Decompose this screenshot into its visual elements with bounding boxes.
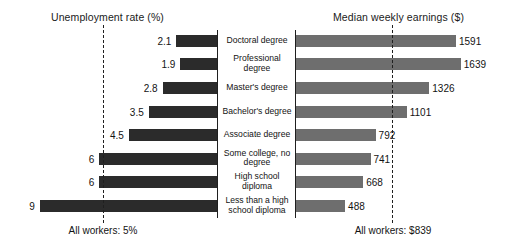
unemployment-value-label: 6 xyxy=(89,153,95,164)
earnings-bar xyxy=(296,176,363,188)
unemployment-value-label: 2.8 xyxy=(144,82,158,93)
earnings-bar xyxy=(296,129,376,141)
earnings-bar xyxy=(296,35,456,47)
earnings-bar xyxy=(296,58,461,70)
earnings-value-label: 741 xyxy=(374,153,391,164)
chart-row: 9Less than a high school diploma488 xyxy=(0,194,526,218)
category-label: Doctoral degree xyxy=(220,36,294,46)
chart-row: 6High school diploma668 xyxy=(0,171,526,195)
chart-row: 2.1Doctoral degree1591 xyxy=(0,29,526,53)
category-label: Master's degree xyxy=(220,83,294,93)
category-label: Professional degree xyxy=(220,55,294,74)
unemployment-value-label: 9 xyxy=(29,200,35,211)
left-footer-label: All workers: 5% xyxy=(69,225,138,236)
earnings-value-label: 1639 xyxy=(464,59,486,70)
earnings-value-label: 488 xyxy=(348,200,365,211)
left-axis-line xyxy=(217,30,218,218)
unemployment-bar xyxy=(99,153,218,165)
left-panel-title: Unemployment rate (%) xyxy=(51,11,164,23)
category-label: Associate degree xyxy=(220,130,294,140)
earnings-value-label: 668 xyxy=(366,177,383,188)
earnings-bar xyxy=(296,200,345,212)
right-reference-line xyxy=(392,25,393,223)
unemployment-bar xyxy=(40,200,218,212)
earnings-bar xyxy=(296,106,407,118)
unemployment-bar xyxy=(149,106,218,118)
category-label: High school diploma xyxy=(220,173,294,192)
unemployment-value-label: 2.1 xyxy=(158,35,172,46)
right-axis-line xyxy=(295,30,296,218)
earnings-bar xyxy=(296,82,429,94)
unemployment-value-label: 4.5 xyxy=(110,130,124,141)
chart-rows: 2.1Doctoral degree15911.9Professional de… xyxy=(0,29,526,218)
right-panel-title: Median weekly earnings ($) xyxy=(333,11,464,23)
category-label: Bachelor's degree xyxy=(220,107,294,117)
chart-row: 6Some college, no degree741 xyxy=(0,147,526,171)
earnings-bar xyxy=(296,153,371,165)
dual-bar-chart: Unemployment rate (%) Median weekly earn… xyxy=(0,0,526,249)
chart-row: 3.5Bachelor's degree1101 xyxy=(0,100,526,124)
unemployment-value-label: 3.5 xyxy=(130,106,144,117)
right-footer-label: All workers: $839 xyxy=(355,225,432,236)
unemployment-bar xyxy=(129,129,218,141)
chart-row: 1.9Professional degree1639 xyxy=(0,53,526,77)
unemployment-value-label: 6 xyxy=(89,177,95,188)
category-label: Less than a high school diploma xyxy=(220,196,294,215)
unemployment-value-label: 1.9 xyxy=(162,59,176,70)
earnings-value-label: 1101 xyxy=(410,106,432,117)
unemployment-bar xyxy=(180,58,218,70)
unemployment-bar xyxy=(99,176,218,188)
unemployment-bar xyxy=(163,82,218,94)
chart-row: 2.8Master's degree1326 xyxy=(0,76,526,100)
left-reference-line xyxy=(103,25,104,223)
earnings-value-label: 1591 xyxy=(459,35,481,46)
unemployment-bar xyxy=(176,35,218,47)
earnings-value-label: 1326 xyxy=(432,82,454,93)
category-label: Some college, no degree xyxy=(220,149,294,168)
chart-row: 4.5Associate degree792 xyxy=(0,123,526,147)
